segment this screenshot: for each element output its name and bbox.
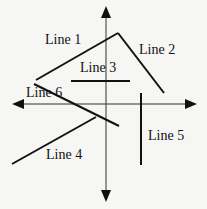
y-axis-down-arrow-icon bbox=[101, 190, 111, 202]
diagram-canvas bbox=[0, 0, 207, 209]
line-2-label: Line 2 bbox=[139, 43, 175, 57]
line-1-label: Line 1 bbox=[45, 33, 81, 47]
line-3-label: Line 3 bbox=[80, 61, 116, 75]
y-axis-up-arrow-icon bbox=[101, 6, 111, 18]
x-axis-left-arrow-icon bbox=[12, 99, 24, 109]
line-4-label: Line 4 bbox=[46, 148, 82, 162]
x-axis-right-arrow-icon bbox=[185, 99, 197, 109]
line-6-label: Line 6 bbox=[26, 86, 62, 100]
line-5-label: Line 5 bbox=[148, 129, 184, 143]
